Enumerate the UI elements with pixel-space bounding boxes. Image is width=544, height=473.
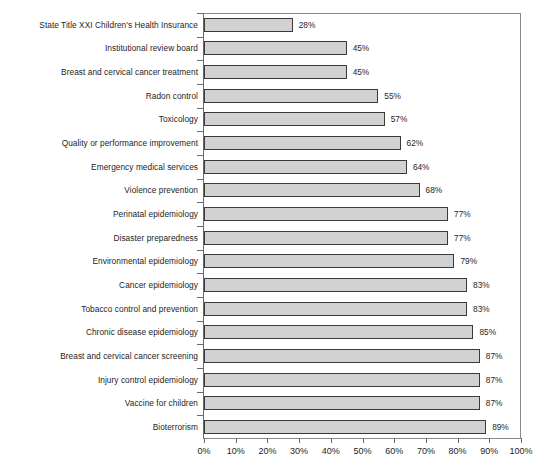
x-axis-tick-label: 80% [449,445,467,457]
bar-track: 55% [204,89,521,103]
bar-value-label: 45% [353,43,370,53]
x-axis-tick [299,438,300,443]
category-label: Quality or performance improvement [62,138,198,148]
bar [204,41,347,55]
x-axis-tick-label: 70% [417,445,435,457]
bar-track: 57% [204,112,521,126]
bar-row: Institutional review board45% [0,37,544,61]
bar-value-label: 68% [426,185,443,195]
bar-track: 87% [204,373,521,387]
bar-row: Tobacco control and prevention83% [0,297,544,321]
bar-value-label: 85% [479,327,496,337]
bar [204,325,473,339]
bar-track: 68% [204,183,521,197]
bar [204,396,480,410]
bar-track: 85% [204,325,521,339]
x-axis-tick [363,438,364,443]
bar-row: Vaccine for children87% [0,392,544,416]
bar-row: Cancer epidemiology83% [0,273,544,297]
x-axis-tick [204,438,205,443]
category-label: Breast and cervical cancer screening [60,351,198,361]
y-axis-tick [197,155,203,156]
bar-value-label: 79% [460,256,477,266]
x-axis-tick [458,438,459,443]
bar-row: Environmental epidemiology79% [0,250,544,274]
y-axis-tick [197,226,203,227]
category-label: Breast and cervical cancer treatment [61,67,198,77]
bar-value-label: 87% [486,375,503,385]
bar [204,302,467,316]
y-axis-tick [197,179,203,180]
y-axis-tick [197,297,203,298]
bar [204,160,407,174]
bar-track: 64% [204,160,521,174]
bar-track: 45% [204,41,521,55]
bar-row: Disaster preparedness77% [0,226,544,250]
category-label: Bioterrorism [153,422,198,432]
bar-track: 28% [204,18,521,32]
bar [204,373,480,387]
category-label: State Title XXI Children's Health Insura… [39,20,198,30]
x-axis-tick-label: 0% [197,445,210,457]
category-label: Perinatal epidemiology [113,209,198,219]
bar [204,112,385,126]
bar-track: 83% [204,302,521,316]
bar-row: Breast and cervical cancer treatment45% [0,60,544,84]
bar [204,278,467,292]
category-label: Injury control epidemiology [98,375,198,385]
bar-value-label: 77% [454,233,471,243]
bar-row: Injury control epidemiology87% [0,368,544,392]
bar-row: Chronic disease epidemiology85% [0,321,544,345]
x-axis-tick [521,438,522,443]
x-axis-tick-label: 50% [353,445,371,457]
bar-track: 87% [204,396,521,410]
category-label: Radon control [146,91,198,101]
bar-value-label: 55% [384,91,401,101]
y-axis-tick [197,202,203,203]
x-axis-tick [489,438,490,443]
bar-value-label: 89% [492,422,509,432]
y-axis-tick [197,60,203,61]
category-label: Emergency medical services [91,162,198,172]
category-label: Toxicology [159,114,198,124]
bar-row: Violence prevention68% [0,179,544,203]
bar-value-label: 64% [413,162,430,172]
bar-value-label: 28% [299,20,316,30]
category-label: Vaccine for children [125,398,198,408]
bar [204,420,486,434]
x-axis: 0%10%20%30%40%50%60%70%80%90%100% [203,438,521,473]
x-axis-tick-label: 30% [290,445,308,457]
y-axis-tick [197,13,203,14]
bar-track: 77% [204,207,521,221]
bar [204,18,293,32]
y-axis-tick [197,37,203,38]
bar-track: 62% [204,136,521,150]
x-axis-tick [394,438,395,443]
bar-rows-container: State Title XXI Children's Health Insura… [0,13,544,439]
bar-track: 79% [204,254,521,268]
x-axis-tick-label: 90% [480,445,498,457]
x-axis-tick-label: 60% [385,445,403,457]
bar-value-label: 77% [454,209,471,219]
bar [204,231,448,245]
bar [204,183,420,197]
category-label: Environmental epidemiology [92,256,198,266]
bar-value-label: 83% [473,280,490,290]
bar [204,65,347,79]
x-axis-tick-label: 20% [258,445,276,457]
bar-value-label: 57% [391,114,408,124]
bar-row: Bioterrorism89% [0,415,544,439]
bar-row: Perinatal epidemiology77% [0,202,544,226]
x-axis-tick [236,438,237,443]
bar-row: Breast and cervical cancer screening87% [0,344,544,368]
bar-value-label: 87% [486,398,503,408]
y-axis-tick [197,131,203,132]
bar-track: 45% [204,65,521,79]
category-label: Violence prevention [124,185,198,195]
bar-value-label: 87% [486,351,503,361]
bar-track: 87% [204,349,521,363]
y-axis-tick [197,415,203,416]
bar [204,254,454,268]
y-axis-tick [197,368,203,369]
x-axis-tick-label: 10% [227,445,245,457]
